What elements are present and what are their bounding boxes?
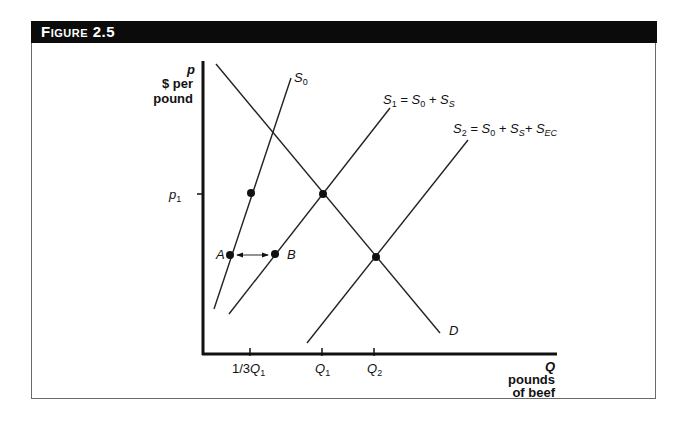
y-axis-symbol: p (186, 62, 195, 77)
point-s1-d-equilibrium (319, 190, 327, 198)
y-tick-label-p1: p1 (168, 187, 181, 204)
y-axis-units-line2: pound (153, 91, 193, 106)
y-axis-units-line1: $ per (162, 76, 193, 91)
label-point-a: A (215, 247, 225, 262)
point-b (271, 250, 279, 258)
x-tick-label-q1: Q1 (315, 361, 330, 378)
point-s2-d-equilibrium (372, 253, 380, 261)
label-s1: S1 = S0 + SS (383, 92, 455, 109)
label-d: D (449, 323, 458, 338)
label-point-b: B (287, 247, 296, 262)
label-s2: S2 = S0 + SS+ SEC (453, 121, 558, 138)
supply-demand-chart: p $ per pound p1 1/3Q1 Q1 Q2 Q pounds of… (0, 0, 687, 425)
supply-curve-s2 (307, 140, 468, 343)
supply-curve-s1 (229, 108, 390, 314)
label-s0: S0 (294, 70, 308, 87)
x-tick-label-q2: Q2 (367, 361, 382, 378)
point-s0-p1 (247, 189, 255, 197)
x-tick-label-third-q1: 1/3Q1 (232, 361, 265, 378)
x-axis-units-line2: of beef (512, 385, 555, 400)
point-a (226, 251, 234, 259)
